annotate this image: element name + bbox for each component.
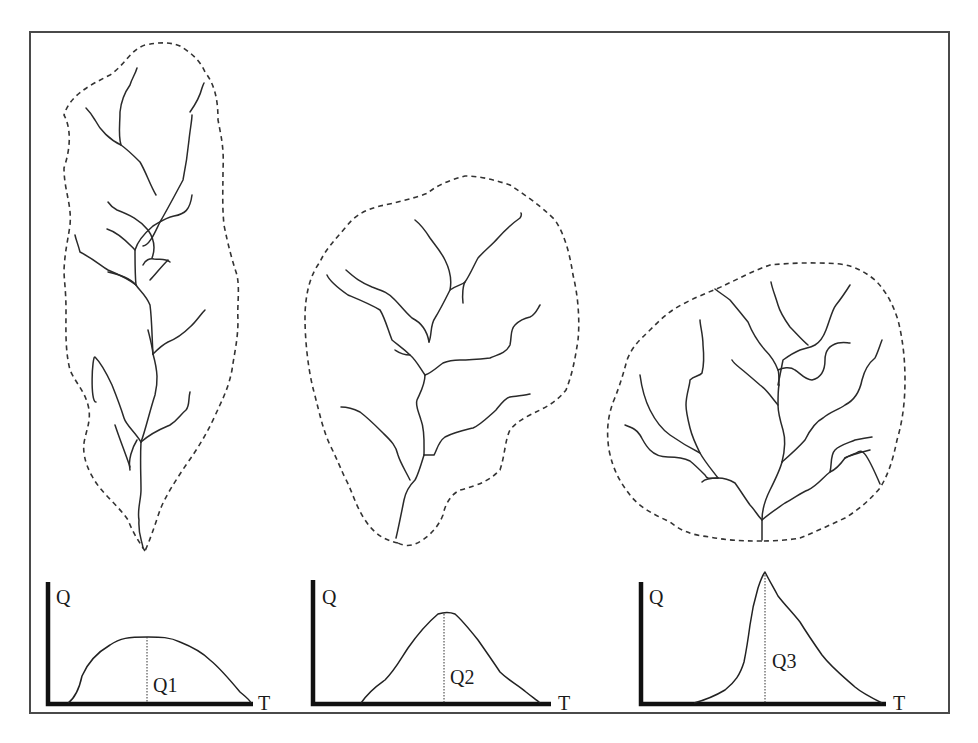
hydrograph-2-curve xyxy=(361,613,540,704)
figure-frame xyxy=(30,32,949,713)
basin-1-stream-network xyxy=(75,68,205,548)
basin-3-stream-network xyxy=(625,282,882,540)
hydrograph-3-x-label: T xyxy=(893,692,905,714)
hydrograph-q2: Q T Q2 xyxy=(313,580,570,714)
basin-2-stream-network xyxy=(327,213,540,538)
basin-2-pear xyxy=(305,176,579,546)
hydrograph-3-peak-label: Q3 xyxy=(772,650,796,672)
hydrograph-3-axes xyxy=(641,582,886,704)
basin-1-watershed-boundary xyxy=(64,43,238,551)
basin-2-watershed-boundary xyxy=(305,176,579,546)
hydrograph-q3: Q T Q3 xyxy=(641,572,905,714)
hydrograph-2-x-label: T xyxy=(558,692,570,714)
basin-3-circular xyxy=(608,263,905,541)
basin-1-elongated xyxy=(64,43,238,551)
hydrograph-1-peak-label: Q1 xyxy=(153,674,177,696)
hydrograph-3-curve xyxy=(694,572,882,703)
hydrograph-2-y-label: Q xyxy=(322,586,337,608)
basin-3-watershed-boundary xyxy=(608,263,905,541)
hydrograph-1-x-label: T xyxy=(258,692,270,714)
hydrograph-2-axes xyxy=(313,580,551,704)
hydrograph-3-y-label: Q xyxy=(649,586,664,608)
hydrograph-1-y-label: Q xyxy=(56,586,71,608)
basin-shape-diagram: Q T Q1 Q T Q2 Q T Q3 xyxy=(0,0,978,743)
hydrograph-q1: Q T Q1 xyxy=(48,582,270,714)
hydrograph-2-peak-label: Q2 xyxy=(450,666,474,688)
